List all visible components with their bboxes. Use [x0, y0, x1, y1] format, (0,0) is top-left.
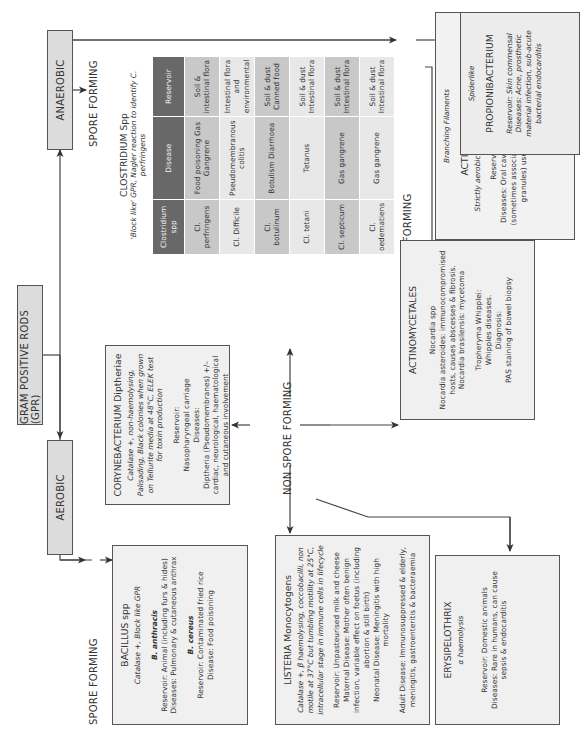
actinomycetales-title: ACTINOMYCETALES	[407, 246, 419, 414]
gram-positive-rods-box: GRAM POSITIVE RODS (GPR)	[17, 285, 43, 425]
table-cell: Botulism Diarrhoea	[255, 117, 290, 200]
anaerobic-label: ANAEROBIC	[55, 60, 66, 121]
table-cell: Soil & dust Canned food	[255, 56, 290, 117]
table-cell: Soil & dust Intestinal flora	[290, 56, 325, 117]
clostridium-table: Clostridium spp Disease Reservoir Cl. pe…	[152, 56, 395, 255]
bacillus-title: BACILLUS spp	[119, 551, 131, 719]
anaerobic-box: ANAEROBIC	[47, 30, 73, 150]
table-row: Cl. perfringens Food poisoning Gas Gangr…	[185, 56, 220, 254]
table-cell: Intestinal flora and environmental	[220, 56, 255, 117]
aerobic-label: AEROBIC	[55, 474, 66, 520]
corynebacterium-box: CORYNEBACTERIUM Diptheriae Catalase +, n…	[105, 345, 230, 505]
table-cell: Pseudomembranous colitis	[220, 117, 255, 200]
table-row: Cl. oedematiens Gas gangrene Soil & dust…	[360, 56, 395, 254]
corynebacterium-reservoir-label: Reservoir:	[172, 351, 182, 499]
table-cell: Soil & dust Intestinal flora	[360, 56, 395, 117]
erysipelothrix-title: ERYSIPELOTHRIX	[442, 561, 454, 719]
table-cell: Cl. septicum	[325, 199, 360, 254]
table-cell: Cl. perfringens	[185, 199, 220, 254]
listeria-subtitle: Catalase +, β haemolysing, coccobacilli,…	[296, 541, 325, 719]
header-cell: Reservoir	[153, 56, 185, 117]
nocardia-title: Nocardia spp	[428, 246, 438, 414]
table-cell: Soil & intestinal flora	[185, 56, 220, 117]
cereus-disease: Disease: Food poisoning	[206, 551, 216, 719]
listeria-reservoir: Reservoir: Unpasteurised milk and cheese	[332, 541, 342, 719]
anthracis-reservoir: Reservoir: Animal (including furs & hide…	[160, 551, 170, 719]
listeria-neonatal: Neonatal Disease: Meningitis with high m…	[372, 541, 392, 719]
corynebacterium-reservoir: Nasopharyngeal carriage	[182, 351, 192, 499]
corynebacterium-diseases: Diptheria (Pseudomembranes) +/– cardiac,…	[202, 351, 231, 499]
diagnosis-label: Diagnosis:	[494, 246, 504, 414]
table-cell: Cl. oedematiens	[360, 199, 395, 254]
propionibacterium-box: Spiderlike PROPIONIBACTERIUM Reservoir: …	[460, 12, 580, 155]
erysipelothrix-subtitle: α haemolysis	[456, 561, 466, 719]
table-cell: Cl. botulinum	[255, 199, 290, 254]
bacillus-subtitle: Catalase +, Block like GPR	[133, 551, 143, 719]
propionibacterium-reservoir: Reservoir: Skin commensal	[505, 18, 515, 149]
table-cell: Cl. Difficile	[220, 199, 255, 254]
table-row: Cl. tetani Tetanus Soil & dust Intestina…	[290, 56, 325, 254]
actinomyces-group-label: Branching Filaments	[442, 18, 452, 234]
aerobic-non-spore-forming-label: NON SPORE FORMING	[282, 382, 293, 495]
table-row: Cl. Difficile Pseudomembranous colitis I…	[220, 56, 255, 254]
header-cell: Clostridium spp	[153, 199, 185, 254]
root-label: GRAM POSITIVE RODS (GPR)	[19, 286, 41, 424]
clostridium-title: CLOSTRIDIUM Spp	[118, 55, 129, 255]
anthracis-diseases: Diseases: Pulmonary & cutaneous anthrax	[169, 551, 179, 719]
cereus-name: B. cereus	[186, 551, 196, 719]
tropheryma-disease: Whipples diseases.	[484, 246, 494, 414]
table-row: Cl. botulinum Botulism Diarrhoea Soil & …	[255, 56, 290, 254]
table-row: Cl. septicum Gas gangrene Soil & dust In…	[325, 56, 360, 254]
table-cell: Tetanus	[290, 117, 325, 200]
diagnosis: PAS staining of bowel biopsy	[504, 246, 514, 414]
table-header-row: Clostridium spp Disease Reservoir	[153, 56, 185, 254]
table-cell: Food poisoning Gas Gangrene	[185, 117, 220, 200]
nocardia-asteroides: Nocardia asteroides: immunocompromised h…	[438, 246, 458, 414]
table-cell: Cl. tetani	[290, 199, 325, 254]
corynebacterium-subtitle: Catalase +, non-haemolysing, Palisading,…	[126, 351, 165, 499]
listeria-maternal: Maternal Disease: Mother often benign in…	[342, 541, 371, 719]
propionibacterium-group-label: Spiderlike	[467, 18, 477, 149]
propionibacterium-title: PROPIONIBACTERIUM	[484, 18, 496, 149]
nocardia-brasilensis: Nocardia brasilensis: mycetoma	[457, 246, 467, 414]
corynebacterium-diseases-label: Diseases:	[192, 351, 202, 499]
bacillus-box: BACILLUS spp Catalase +, Block like GPR …	[112, 545, 248, 725]
listeria-title: LISTERIA Monocytogens	[282, 541, 294, 719]
table-cell: Gas gangrene	[360, 117, 395, 200]
listeria-adult: Adult Disease: Immunosuppressed & elderl…	[398, 541, 418, 719]
table-cell: Gas gangrene	[325, 117, 360, 200]
cereus-reservoir: Reservoir: Contaminated fried rice	[196, 551, 206, 719]
anaerobic-spore-forming-label: SPORE FORMING	[88, 60, 99, 147]
corynebacterium-title: CORYNEBACTERIUM Diptheriae	[112, 351, 124, 499]
aerobic-box: AEROBIC	[47, 440, 73, 555]
erysipelothrix-box: ERYSIPELOTHRIX α haemolysis Reservoir: D…	[435, 555, 560, 725]
diagram-canvas: GRAM POSITIVE RODS (GPR) ANAEROBIC SPORE…	[0, 0, 582, 747]
table-cell: Soil & dust Intestinal flora	[325, 56, 360, 117]
aerobic-spore-forming-label: SPORE FORMING	[88, 638, 99, 725]
listeria-box: LISTERIA Monocytogens Catalase +, β haem…	[275, 535, 430, 725]
propionibacterium-diseases: Diseases: Acne, prosthetic material infe…	[514, 18, 543, 149]
anthracis-name: B. anthracis	[150, 551, 160, 719]
tropheryma-title: Tropheryma Whipplei:	[474, 246, 484, 414]
actinomycetales-box: ACTINOMYCETALES Nocardia spp Nocardia as…	[400, 240, 535, 420]
clostridium-subtitle: 'Block like' GPR, Nagler reaction to ide…	[129, 55, 147, 255]
header-cell: Disease	[153, 117, 185, 200]
clostridium-heading: CLOSTRIDIUM Spp 'Block like' GPR, Nagler…	[118, 55, 147, 255]
erysipelothrix-reservoir: Reservoir: Domestic animals	[480, 561, 490, 719]
erysipelothrix-diseases: Diseases: Rare in humans, can cause seps…	[490, 561, 510, 719]
